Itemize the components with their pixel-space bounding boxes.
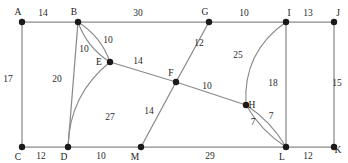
node-C[interactable] bbox=[19, 144, 25, 150]
edge-weight-E-D: 27 bbox=[105, 112, 115, 122]
edge-weight-F-H: 10 bbox=[202, 81, 212, 91]
node-label-M: M bbox=[131, 152, 140, 162]
node-label-B: B bbox=[71, 7, 77, 17]
node-label-E: E bbox=[96, 57, 102, 67]
node-E[interactable] bbox=[107, 59, 113, 65]
node-L[interactable] bbox=[283, 144, 289, 150]
edge-weight-I-L: 18 bbox=[268, 78, 278, 88]
node-D[interactable] bbox=[65, 144, 71, 150]
node-M[interactable] bbox=[138, 144, 144, 150]
edge-weight-labels-layer: 1430101317201815121029121010141210142725… bbox=[3, 8, 342, 161]
edge-weight-D-M: 10 bbox=[96, 151, 106, 161]
edge-weight-M-L: 29 bbox=[205, 151, 215, 161]
edge-weight-E-F: 14 bbox=[133, 56, 143, 66]
node-B[interactable] bbox=[75, 19, 81, 25]
node-label-H: H bbox=[249, 100, 256, 110]
edges-layer bbox=[22, 22, 334, 147]
nodes-layer bbox=[19, 19, 337, 150]
node-labels-layer: ABGIJEFHCDMLK bbox=[15, 7, 342, 162]
node-label-F: F bbox=[168, 68, 173, 78]
edge-G-F bbox=[176, 22, 209, 82]
node-label-G: G bbox=[202, 7, 209, 17]
node-F[interactable] bbox=[173, 79, 179, 85]
edge-I-H bbox=[246, 22, 286, 105]
node-label-A: A bbox=[15, 7, 22, 17]
node-label-L: L bbox=[279, 152, 285, 162]
node-G[interactable] bbox=[206, 19, 212, 25]
node-label-D: D bbox=[61, 152, 68, 162]
edge-weight-B-G: 30 bbox=[133, 8, 143, 18]
edge-weight-G-F: 12 bbox=[194, 38, 204, 48]
edge-weight-I-H: 25 bbox=[233, 50, 243, 60]
edge-weight-H-L: 7 bbox=[269, 111, 274, 121]
edge-weight-J-K: 15 bbox=[332, 78, 342, 88]
edge-weight-L-K: 12 bbox=[303, 151, 313, 161]
edge-weight-B-E: 10 bbox=[103, 35, 113, 45]
node-A[interactable] bbox=[19, 19, 25, 25]
graph-canvas: 1430101317201815121029121010141210142725… bbox=[0, 0, 348, 163]
edge-weight-G-I: 10 bbox=[239, 8, 249, 18]
edge-weight-I-J: 13 bbox=[303, 8, 313, 18]
node-label-K: K bbox=[335, 145, 342, 155]
edge-weight-A-B: 14 bbox=[38, 8, 48, 18]
edge-weight-C-D: 12 bbox=[36, 151, 46, 161]
node-I[interactable] bbox=[283, 19, 289, 25]
edge-weight-B-D: 20 bbox=[52, 74, 62, 84]
edge-weight-F-M: 14 bbox=[144, 106, 154, 116]
graph-figure: 1430101317201815121029121010141210142725… bbox=[0, 0, 348, 163]
edge-weight-H-L: 7 bbox=[251, 117, 256, 127]
edge-weight-B-E: 10 bbox=[79, 44, 89, 54]
node-J[interactable] bbox=[331, 19, 337, 25]
node-label-J: J bbox=[336, 8, 340, 18]
node-label-I: I bbox=[287, 8, 290, 18]
edge-weight-A-C: 17 bbox=[3, 74, 13, 84]
node-label-C: C bbox=[15, 152, 21, 162]
edge-E-F bbox=[110, 62, 176, 82]
